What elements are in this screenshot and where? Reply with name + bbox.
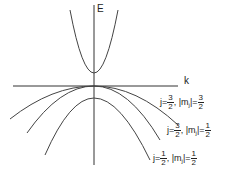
mj-fraction: 12 <box>205 122 211 139</box>
light-hole-label: j=32, |mj|=12 <box>167 122 211 139</box>
energy-axis-label: E <box>97 3 104 14</box>
heavy-hole-label: j=32, |mj|=32 <box>160 94 204 111</box>
mj-fraction: 12 <box>191 150 197 167</box>
split-off-label: j=12, |mj|=12 <box>153 150 197 167</box>
mj-fraction: 32 <box>198 94 204 111</box>
band-diagram <box>0 0 234 177</box>
split-off-band-curve <box>45 98 150 160</box>
k-axis-label: k <box>184 75 189 86</box>
